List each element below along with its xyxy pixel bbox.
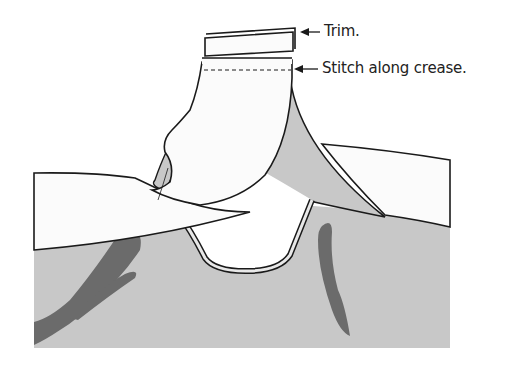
label-trim: Trim. xyxy=(324,22,360,40)
stitch-arrow xyxy=(294,65,318,73)
trim-piece xyxy=(205,32,293,56)
label-stitch-along-crease: Stitch along crease. xyxy=(322,59,467,77)
collar-band xyxy=(202,58,292,64)
trim-arrow xyxy=(300,28,320,36)
sewing-diagram xyxy=(0,0,512,366)
